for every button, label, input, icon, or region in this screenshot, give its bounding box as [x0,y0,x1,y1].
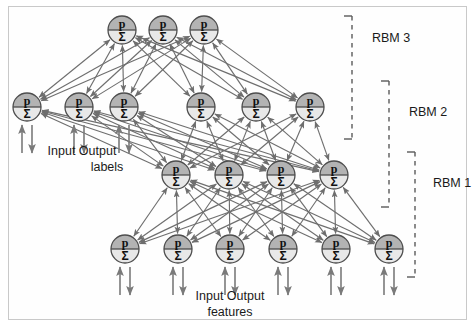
neuron-node: pΣ [13,93,41,121]
rbm-1-bracket: RBM 1 [407,152,471,277]
neuron-node: pΣ [242,93,270,121]
node-sum-glyph: Σ [118,30,125,44]
node-sum-glyph: Σ [75,107,82,121]
node-probability-glyph: p [226,162,233,176]
connection-edge [315,122,329,161]
node-sum-glyph: Σ [306,107,313,121]
node-sum-glyph: Σ [121,249,128,263]
node-sum-glyph: Σ [277,175,284,189]
node-sum-glyph: Σ [252,107,259,121]
deep-belief-network-figure: pΣpΣpΣpΣpΣpΣpΣpΣpΣpΣpΣpΣpΣpΣpΣpΣpΣpΣpΣ R… [0,0,476,332]
connection-edge [217,39,298,98]
connection-edge [41,36,190,101]
network-diagram-canvas: pΣpΣpΣpΣpΣpΣpΣpΣpΣpΣpΣpΣpΣpΣpΣpΣpΣpΣpΣ R… [0,0,476,332]
node-probability-glyph: p [278,162,285,176]
node-sum-glyph: Σ [385,249,392,263]
neuron-node: pΣ [320,161,348,189]
neuron-node: pΣ [375,235,403,263]
node-sum-glyph: Σ [159,30,166,44]
node-sum-glyph: Σ [200,30,207,44]
node-sum-glyph: Σ [23,107,30,121]
node-probability-glyph: p [201,17,208,31]
connection-edge [175,40,244,97]
node-probability-glyph: p [333,236,340,250]
rbm-label: RBM 1 [433,176,471,190]
connection-edge [268,117,323,165]
rbm-label: RBM 3 [372,31,410,45]
neuron-node: pΣ [190,16,218,44]
neuron-node: pΣ [164,235,192,263]
connection-edge [213,43,248,94]
network-edges [39,36,380,244]
node-sum-glyph: Σ [279,249,286,263]
caption-line-primary: Input Output [48,144,117,158]
node-probability-glyph: p [122,236,129,250]
neuron-node: pΣ [162,161,190,189]
rbm-3-bracket: RBM 3 [344,16,410,139]
node-probability-glyph: p [173,162,180,176]
rbm-brackets: RBM 3RBM 2RBM 1 [344,16,471,277]
neuron-node: pΣ [269,235,297,263]
node-probability-glyph: p [198,94,205,108]
node-sum-glyph: Σ [225,175,232,189]
neuron-node: pΣ [149,16,177,44]
neuron-node: pΣ [111,235,139,263]
node-probability-glyph: p [331,162,338,176]
neuron-node: pΣ [296,93,324,121]
node-probability-glyph: p [24,94,31,108]
connection-edge [137,115,216,166]
neuron-node: pΣ [108,16,136,44]
node-probability-glyph: p [76,94,83,108]
neuron-node: pΣ [110,93,138,121]
node-sum-glyph: Σ [332,249,339,263]
node-sum-glyph: Σ [226,249,233,263]
connection-edge [343,187,380,236]
node-probability-glyph: p [227,236,234,250]
caption-line-primary: Input Output [196,289,265,303]
connection-edge [134,188,167,236]
connection-edge [202,45,204,91]
node-probability-glyph: p [386,236,393,250]
node-sum-glyph: Σ [330,175,337,189]
node-probability-glyph: p [307,94,314,108]
node-probability-glyph: p [175,236,182,250]
labels-io-caption: Input Outputlabels [48,144,124,174]
node-sum-glyph: Σ [172,175,179,189]
features-io-caption: Input Outputfeatures [196,289,265,319]
connection-edge [136,36,295,101]
connection-edge [87,44,115,94]
node-probability-glyph: p [280,236,287,250]
rbm3-connections [39,36,297,101]
connection-edge [191,180,375,244]
connection-edge [243,182,375,243]
neuron-node: pΣ [216,235,244,263]
caption-line-secondary: features [207,305,252,319]
node-probability-glyph: p [119,17,126,31]
neuron-node: pΣ [187,93,215,121]
connection-edge [176,190,177,233]
node-probability-glyph: p [160,17,167,31]
neuron-node: pΣ [322,235,350,263]
rbm1-connections [134,180,380,244]
node-probability-glyph: p [121,94,128,108]
neuron-node: pΣ [267,161,295,189]
rbm-label: RBM 2 [409,105,447,119]
node-sum-glyph: Σ [174,249,181,263]
node-sum-glyph: Σ [120,107,127,121]
caption-line-secondary: labels [91,160,124,174]
node-sum-glyph: Σ [197,107,204,121]
neuron-node: pΣ [65,93,93,121]
neuron-node: pΣ [215,161,243,189]
node-probability-glyph: p [253,94,260,108]
